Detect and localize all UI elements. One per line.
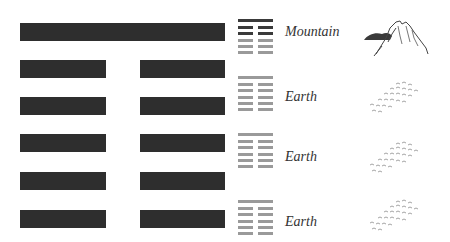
earth-field-icon: [366, 140, 424, 178]
hexagram-line-3-broken-left: [20, 97, 106, 115]
trigram-label-earth: Earth: [285, 214, 317, 230]
hexagram-line-3-broken-right: [140, 97, 225, 115]
hexagram-line-1-solid: [20, 23, 225, 41]
mountain-hexagram-symbol: [238, 19, 273, 55]
earth-field-icon: [366, 80, 424, 118]
earth-hexagram-symbol: [238, 200, 273, 236]
hexagram-line-4-broken-right: [140, 134, 225, 152]
trigram-label-earth: Earth: [285, 149, 317, 165]
earth-field-icon: [366, 198, 424, 236]
hexagram-line-2-broken-right: [140, 60, 225, 78]
hexagram-line-5-broken-left: [20, 172, 106, 190]
trigram-label-earth: Earth: [285, 89, 317, 105]
mountain-icon: [362, 16, 434, 60]
hexagram-line-2-broken-left: [20, 60, 106, 78]
hexagram-line-6-broken-right: [140, 210, 225, 228]
trigram-label-mountain: Mountain: [285, 24, 339, 40]
hexagram-line-4-broken-left: [20, 134, 106, 152]
earth-hexagram-symbol: [238, 76, 273, 112]
hexagram-line-6-broken-left: [20, 210, 106, 228]
hexagram-line-5-broken-right: [140, 172, 225, 190]
earth-hexagram-symbol: [238, 133, 273, 169]
